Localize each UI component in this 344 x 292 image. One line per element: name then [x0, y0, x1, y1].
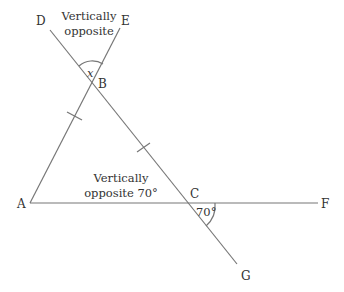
label-e: E	[121, 14, 130, 28]
label-b: B	[98, 77, 107, 91]
label-d: D	[36, 14, 46, 28]
geometry-diagram: D E B A C F G x 70° Vertically opposite …	[0, 0, 344, 292]
angle-label-x: x	[87, 66, 94, 80]
annotation-top-line2: opposite	[64, 24, 114, 38]
annotation-top-line1: Vertically	[60, 9, 117, 23]
label-c: C	[190, 187, 199, 201]
label-f: F	[321, 197, 329, 211]
annotation-mid-line2: opposite 70°	[84, 186, 158, 200]
angle-label-70: 70°	[196, 205, 216, 219]
label-g: G	[241, 269, 251, 283]
label-a: A	[16, 197, 26, 211]
equal-tick-ab	[67, 112, 82, 120]
equal-tick-bc	[137, 143, 150, 152]
annotation-mid-line1: Vertically	[92, 171, 149, 185]
